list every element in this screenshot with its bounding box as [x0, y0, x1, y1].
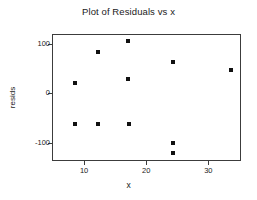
data-point: [96, 122, 100, 126]
data-point: [96, 50, 100, 54]
x-tick-mark: [146, 160, 147, 165]
chart-title: Plot of Residuals vs x: [0, 6, 257, 17]
x-tick-label: 20: [142, 167, 150, 175]
y-axis-title-label: resids: [9, 87, 18, 108]
y-axis-title: resids: [4, 34, 22, 161]
x-tick-label: 10: [80, 167, 88, 175]
data-point: [73, 81, 77, 85]
data-point: [126, 77, 130, 81]
data-point: [73, 122, 77, 126]
x-tick-mark: [208, 160, 209, 165]
residuals-scatter-figure: Plot of Residuals vs x 1000-100 102030 r…: [0, 0, 257, 200]
data-point: [126, 39, 130, 43]
x-axis-title: x: [0, 180, 257, 190]
y-tick-label: 0: [46, 89, 50, 97]
data-point: [229, 68, 233, 72]
x-tick-label: 30: [204, 167, 212, 175]
data-point: [171, 60, 175, 64]
scatter-points-layer: [53, 35, 240, 160]
y-tick-label: 100: [37, 40, 50, 48]
data-point: [171, 141, 175, 145]
data-point: [171, 151, 175, 155]
data-point: [127, 122, 131, 126]
plot-area: 1000-100 102030: [52, 34, 241, 161]
y-tick-label: -100: [35, 139, 50, 147]
x-tick-mark: [84, 160, 85, 165]
